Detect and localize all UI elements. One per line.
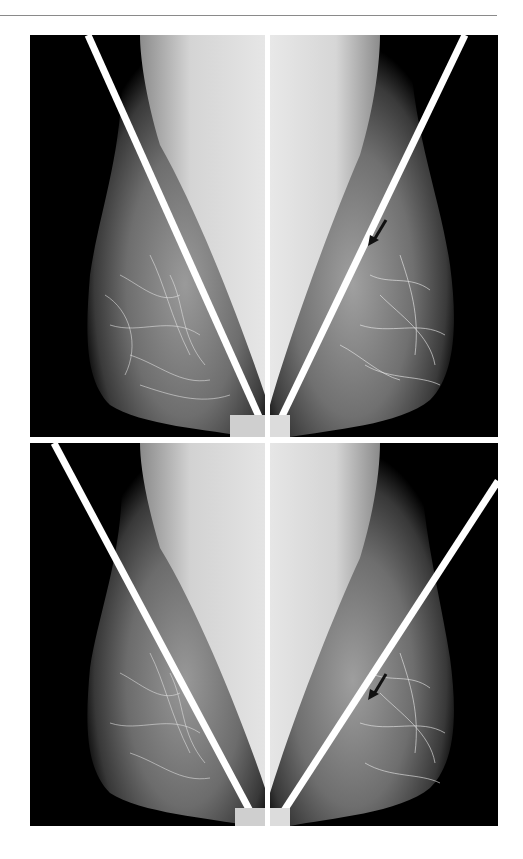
panel-top-right: [270, 35, 498, 437]
panel-bottom-left: [30, 443, 265, 826]
top-rule: [0, 15, 497, 16]
arrow-icon: [366, 672, 390, 702]
arrow-icon: [366, 218, 390, 248]
mammogram-image-bottom-right: [270, 443, 498, 826]
panel-bottom-right: [270, 443, 498, 826]
mammogram-figure: [30, 35, 498, 826]
mammogram-image-bottom-left: [30, 443, 265, 826]
panel-top-left: [30, 35, 265, 437]
mammogram-image-top-left: [30, 35, 265, 437]
